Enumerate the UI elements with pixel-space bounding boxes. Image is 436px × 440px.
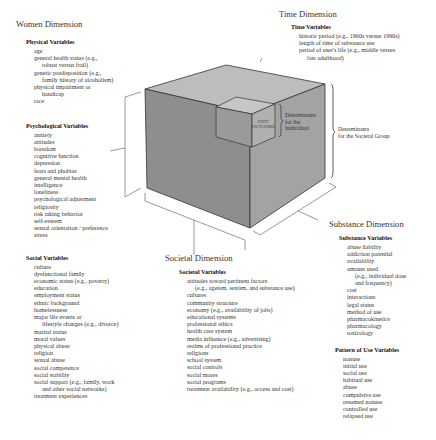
unit-outcome-label: UNIT OUTCOME xyxy=(252,119,274,129)
variable-text: amount used xyxy=(347,266,378,272)
variable-item: education xyxy=(34,285,118,292)
variable-text: professional ethics xyxy=(187,321,233,327)
variable-item: cognitive function xyxy=(34,153,118,160)
variable-item: boredom xyxy=(34,146,118,153)
variable-item: self-esteem xyxy=(34,218,118,225)
variable-list: attitudes toward pertinent factors(e.g.,… xyxy=(179,278,295,393)
variable-text: legal status xyxy=(347,302,374,308)
variable-text-continuation: family history of alcoholism) xyxy=(34,77,118,84)
variable-text: intelligence xyxy=(34,182,62,188)
variable-item: amount used xyxy=(347,266,406,273)
variable-item: genetic predisposition (e.g.,family hist… xyxy=(34,70,118,84)
variable-text: sexual orientation / preference xyxy=(34,225,108,231)
societal-variables-group: Societal Variables attitudes toward pert… xyxy=(179,268,295,393)
variable-item: physical impairment orhandicap xyxy=(34,84,118,98)
psychological-variables-group: Psychological Variables anxietyattitudes… xyxy=(26,122,118,240)
variable-item: cultures xyxy=(187,292,295,299)
societal-determinants-label: Determinants for the Societal Group xyxy=(338,126,390,139)
variable-item: social stability xyxy=(34,372,118,379)
group-title: Time Variables xyxy=(291,23,400,30)
variable-text: attitudes xyxy=(34,139,55,145)
variable-text-continuation: robust versus frail) xyxy=(34,62,118,69)
variable-text: economy (e.g., availability of jobs) xyxy=(187,307,272,313)
variable-item: historic period (e.g., 1960s versus 1990… xyxy=(299,33,400,40)
variable-item: addiction potential xyxy=(347,251,406,258)
variable-text: compulsive use xyxy=(343,392,381,398)
variable-list: historic period (e.g., 1960s versus 1990… xyxy=(291,33,400,62)
variable-item: sexual orientation / preference xyxy=(34,225,118,232)
variable-text: general mental health xyxy=(34,175,86,181)
social-variables-group: Social Variables culturedysfunctional fa… xyxy=(26,254,118,401)
variable-text: treatment experiences xyxy=(34,393,87,399)
variable-item: educational systems xyxy=(187,314,295,321)
variable-text: culture xyxy=(34,264,51,270)
variable-text: initial use xyxy=(343,363,367,369)
variable-text: social support (e.g., family, work xyxy=(34,379,115,385)
variable-text: habitual use xyxy=(343,377,372,383)
pattern-of-use-variables-group: Pattern of Use Variables nonuseinitial u… xyxy=(335,346,406,421)
women-dimension: Women Dimension Physical Variables agege… xyxy=(16,19,118,409)
variable-text: physical impairment or xyxy=(34,84,91,90)
variable-text: homelessness xyxy=(34,307,67,313)
variable-text: educational systems xyxy=(187,314,236,320)
variable-text: marital status xyxy=(34,329,67,335)
variable-text: stress xyxy=(34,232,48,238)
variable-text: physical abuse xyxy=(34,343,70,349)
variable-item: social programs xyxy=(187,379,295,386)
variable-item: legal status xyxy=(347,302,406,309)
variable-text: period of user's life (e.g., middle vers… xyxy=(299,47,395,53)
variable-text: self-esteem xyxy=(34,218,62,224)
variable-item: employment status xyxy=(34,292,118,299)
variable-text: loneliness xyxy=(34,189,58,195)
physical-variables-group: Physical Variables agegeneral health sta… xyxy=(26,38,118,106)
variable-item: race xyxy=(34,98,118,105)
variable-text: attitudes toward pertinent factors xyxy=(187,278,267,284)
variable-item: major life events orlifestyle changes (e… xyxy=(34,314,118,328)
societal-bracket xyxy=(331,84,335,178)
variable-item: fears and phobias xyxy=(34,168,118,175)
variable-text: social controls xyxy=(187,364,222,370)
variable-item: school system xyxy=(187,357,295,364)
variable-item: ethnic background xyxy=(34,300,118,307)
variable-item: social support (e.g., family, workand ot… xyxy=(34,379,118,393)
variable-text: religion xyxy=(34,350,53,356)
variable-item: abuse xyxy=(343,384,406,391)
variable-text: risk taking behavior xyxy=(34,211,83,217)
individual-determinants-label: Determinants for the Individual xyxy=(285,112,316,132)
variable-item: religiosity xyxy=(34,204,118,211)
variable-text: pharmacology xyxy=(347,323,382,329)
variable-text: addiction potential xyxy=(347,251,393,257)
substance-dimension: Substance Dimension Substance Variables … xyxy=(329,219,406,428)
variable-text: major life events or xyxy=(34,314,82,320)
variable-text: abuse xyxy=(343,384,357,390)
substance-dimension-title: Substance Dimension xyxy=(329,219,406,229)
variable-text: race xyxy=(34,98,44,104)
variable-text: length of time of substance use xyxy=(299,40,375,46)
variable-text: historic period (e.g., 1960s versus 1990… xyxy=(299,33,400,39)
variable-item: social use xyxy=(343,370,406,377)
variable-item: homelessness xyxy=(34,307,118,314)
variable-text-continuation: handicap xyxy=(34,91,118,98)
time-connector xyxy=(260,58,262,62)
variable-text: genetic predisposition (e.g., xyxy=(34,70,102,76)
variable-text-continuation: and other social networks) xyxy=(34,386,118,393)
variable-item: psychological adjustment xyxy=(34,196,118,203)
societal-label-line: for the Societal Group xyxy=(338,133,390,140)
variable-item: (e.g., individual dose xyxy=(347,273,406,280)
variable-item: religions xyxy=(187,350,295,357)
variable-text: toxicology xyxy=(347,330,373,336)
variable-item: abuse liability xyxy=(347,244,406,251)
variable-item: intelligence xyxy=(34,182,118,189)
variable-text: economic status (e.g., poverty) xyxy=(34,278,109,284)
group-title: Physical Variables xyxy=(26,38,118,45)
variable-text: community structure xyxy=(187,300,238,306)
variable-text: abuse liability xyxy=(347,244,381,250)
group-title: Psychological Variables xyxy=(26,122,118,129)
variable-text: social programs xyxy=(187,379,226,385)
variable-item: community structure xyxy=(187,300,295,307)
variable-item: moral values xyxy=(34,336,118,343)
variable-item: religion xyxy=(34,350,118,357)
variable-text: availability xyxy=(347,258,374,264)
variable-item: attitudes toward pertinent factors(e.g.,… xyxy=(187,278,295,292)
variable-text: dysfunctional family xyxy=(34,271,85,277)
